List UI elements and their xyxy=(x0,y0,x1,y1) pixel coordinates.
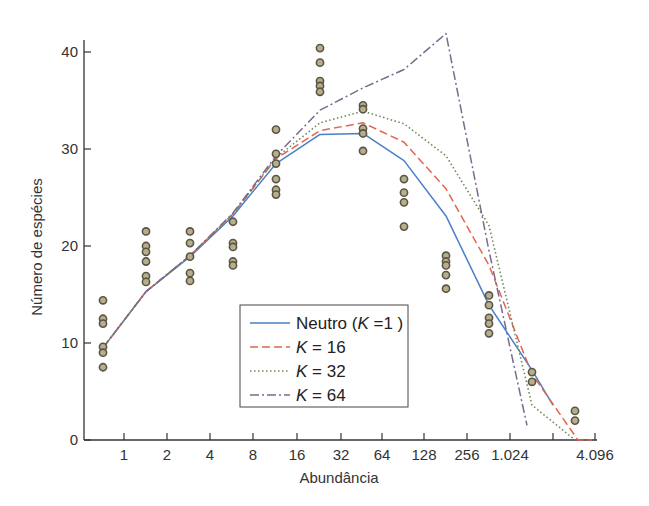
x-tick-label: 128 xyxy=(411,446,436,463)
x-tick-label: 1 xyxy=(120,446,128,463)
observed-point xyxy=(186,239,193,246)
observed-point xyxy=(359,147,366,154)
x-tick-label: 32 xyxy=(333,446,350,463)
observed-point xyxy=(272,126,279,133)
observed-point xyxy=(99,320,106,327)
observed-point xyxy=(571,407,578,414)
observed-point xyxy=(272,160,279,167)
legend-label-1: K = 16 xyxy=(296,338,346,357)
observed-point xyxy=(485,302,492,309)
legend-label-3: K = 64 xyxy=(296,386,346,405)
observed-point xyxy=(272,191,279,198)
observed-point xyxy=(400,189,407,196)
x-tick-label: 2 xyxy=(163,446,171,463)
observed-point xyxy=(99,364,106,371)
observed-point xyxy=(485,330,492,337)
observed-point xyxy=(186,228,193,235)
y-tick-label: 20 xyxy=(61,237,78,254)
observed-point xyxy=(485,320,492,327)
x-tick-label: 4.096 xyxy=(576,446,614,463)
observed-point xyxy=(316,88,323,95)
observed-point xyxy=(400,223,407,230)
legend-label-0: Neutro (K =1 ) xyxy=(296,314,403,333)
observed-point xyxy=(229,262,236,269)
observed-point xyxy=(316,59,323,66)
x-tick-label: 1.024 xyxy=(491,446,529,463)
y-tick-label: 30 xyxy=(61,140,78,157)
legend-label-2: K = 32 xyxy=(296,362,346,381)
observed-point xyxy=(442,262,449,269)
legend: Neutro (K =1 )K = 16K = 32K = 64 xyxy=(240,305,408,407)
observed-point xyxy=(528,378,535,385)
y-tick-label: 40 xyxy=(61,43,78,60)
x-tick-label: 8 xyxy=(249,446,257,463)
observed-point xyxy=(186,270,193,277)
observed-point xyxy=(186,253,193,260)
observed-point xyxy=(229,243,236,250)
x-axis-ticks: 12481632641282561.0244.096 xyxy=(120,433,614,463)
observed-point xyxy=(571,417,578,424)
x-axis-title: Abundância xyxy=(299,469,379,486)
species-abundance-chart: 010203040 12481632641282561.0244.096 Núm… xyxy=(0,0,649,506)
observed-point xyxy=(142,258,149,265)
observed-point xyxy=(485,292,492,299)
x-tick-label: 256 xyxy=(454,446,479,463)
observed-point xyxy=(186,277,193,284)
observed-point xyxy=(400,175,407,182)
x-tick-label: 4 xyxy=(206,446,214,463)
observed-point xyxy=(142,248,149,255)
observed-point xyxy=(400,199,407,206)
y-tick-label: 0 xyxy=(70,431,78,448)
x-tick-label: 64 xyxy=(374,446,391,463)
chart-svg: 010203040 12481632641282561.0244.096 Núm… xyxy=(0,0,649,506)
observed-point xyxy=(359,106,366,113)
x-tick-label: 16 xyxy=(289,446,306,463)
observed-point xyxy=(272,150,279,157)
y-axis-title: Número de espécies xyxy=(28,178,45,316)
observed-point xyxy=(316,45,323,52)
observed-point xyxy=(99,349,106,356)
observed-point xyxy=(99,297,106,304)
observed-point xyxy=(142,278,149,285)
observed-point xyxy=(442,285,449,292)
y-tick-label: 10 xyxy=(61,334,78,351)
observed-point xyxy=(142,228,149,235)
observed-point xyxy=(528,369,535,376)
y-axis-ticks: 010203040 xyxy=(61,43,91,448)
observed-point xyxy=(272,175,279,182)
observed-point xyxy=(442,272,449,279)
observed-point xyxy=(229,218,236,225)
observed-point xyxy=(359,130,366,137)
